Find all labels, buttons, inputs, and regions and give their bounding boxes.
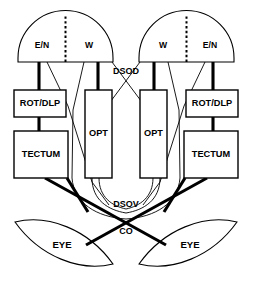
left-rotdlp-label: ROT/DLP (20, 98, 60, 108)
right-dome-thin-branch-b (168, 62, 180, 178)
right-dome-segment-w-label: W (159, 40, 168, 50)
right-eye-label: EYE (180, 239, 200, 250)
right-rotdlp-label: ROT/DLP (192, 98, 232, 108)
left-dome-segment-w-label: W (85, 40, 94, 50)
left-dome-segment-en-label: E/N (35, 40, 49, 50)
dsod-label: DSOD (113, 66, 140, 76)
co-label: CO (119, 226, 133, 236)
right-opt-label: OPT (144, 128, 163, 138)
left-eye-label: EYE (52, 239, 72, 250)
diagram-canvas: E/N W W E/N DSOD DSOV (0, 0, 253, 293)
right-tectum-label: TECTUM (192, 149, 231, 159)
dsov-label: DSOV (113, 199, 139, 209)
left-opt-label: OPT (89, 128, 108, 138)
left-tectum-label: TECTUM (22, 149, 61, 159)
co-stub-right (164, 178, 185, 212)
right-dome-segment-en-label: E/N (203, 40, 217, 50)
co-stub-left (67, 178, 88, 212)
left-dome-thin-branch-b (72, 62, 84, 178)
pathway-diagram: E/N W W E/N DSOD DSOV (0, 0, 253, 293)
